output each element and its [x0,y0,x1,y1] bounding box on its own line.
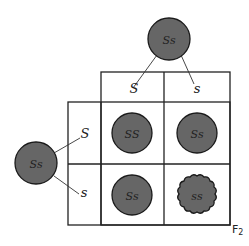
parent-left: Ss [15,138,80,194]
punnett-square-diagram: Ss S s Ss S s SS Ss Ss ss F2 [0,0,249,246]
cell-Ss-bottom-left: Ss [112,175,152,215]
generation-label: F2 [232,223,243,237]
cell-ss: ss [178,175,217,214]
parent-left-genotype: Ss [29,158,43,171]
cell-Ss-top-right: Ss [177,113,217,153]
svg-text:SS: SS [125,128,140,141]
gamete-left-1: S [81,126,90,141]
cell-SS: SS [112,113,152,153]
parent-top-genotype: Ss [162,34,176,47]
svg-text:ss: ss [191,190,203,203]
svg-text:Ss: Ss [125,190,139,203]
gamete-top-2: s [194,81,201,96]
svg-text:Ss: Ss [190,128,204,141]
gamete-top-1: S [130,81,139,96]
gamete-left-2: s [81,185,88,200]
